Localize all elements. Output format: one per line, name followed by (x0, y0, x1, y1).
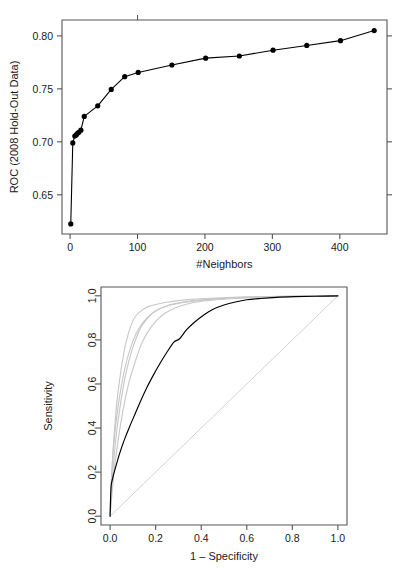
y-axis-tick-labels: 0.00.20.40.60.81.0 (86, 288, 98, 523)
data-point (95, 103, 100, 108)
x-tick-label: 300 (264, 241, 282, 253)
x-tick-label: 1.0 (331, 532, 346, 544)
x-axis-tick-labels: 0100200300400 (67, 241, 349, 253)
plot-border (62, 20, 387, 234)
x-axis-tick-labels: 0.00.20.40.60.81.0 (103, 532, 346, 544)
x-axis-title: 1 – Specificity (190, 550, 258, 562)
x-tick-label: 0 (67, 241, 73, 253)
data-point (372, 28, 377, 33)
x-axis-title: #Neighbors (196, 258, 253, 270)
x-axis-ticks (110, 525, 338, 530)
y-tick-label: 0.80 (33, 30, 54, 42)
chance-diagonal-line (110, 296, 338, 516)
y-tick-label: 0.75 (33, 83, 54, 95)
y-axis-ticks (96, 296, 101, 516)
y-tick-label: 0.2 (86, 465, 98, 480)
y-tick-label: 1.0 (86, 288, 98, 303)
data-point (109, 87, 114, 92)
data-point (68, 221, 73, 226)
y-axis-title: Sensitivity (42, 381, 54, 431)
neighbors-chart-svg: 0100200300400 0.650.700.750.80 #Neighbor… (0, 0, 406, 272)
neighbors-series-group (68, 28, 377, 227)
data-point (203, 56, 208, 61)
y-tick-label: 0.6 (86, 377, 98, 392)
x-tick-label: 400 (331, 241, 349, 253)
data-point (136, 70, 141, 75)
data-point (270, 48, 275, 53)
x-tick-label: 200 (196, 241, 214, 253)
data-point (237, 53, 242, 58)
y-tick-label: 0.0 (86, 509, 98, 524)
y-tick-label: 0.65 (33, 189, 54, 201)
chart-panel-roc: 0.00.20.40.60.81.0 0.00.20.40.60.81.0 1 … (0, 272, 406, 575)
data-point (304, 43, 309, 48)
series-line (71, 31, 374, 224)
x-tick-label: 100 (129, 241, 147, 253)
x-tick-label: 0.8 (285, 532, 300, 544)
neighbors-plot-box (62, 20, 387, 234)
data-point (338, 38, 343, 43)
y-axis-title: ROC (2008 Hold-Out Data) (8, 61, 20, 194)
x-tick-label: 0.2 (148, 532, 163, 544)
data-point (70, 140, 75, 145)
x-tick-label: 0.0 (103, 532, 118, 544)
data-point (122, 74, 127, 79)
chart-panel-neighbors: 0100200300400 0.650.700.750.80 #Neighbor… (0, 0, 406, 272)
roc-chart-svg: 0.00.20.40.60.81.0 0.00.20.40.60.81.0 1 … (0, 272, 406, 575)
y-tick-label: 0.4 (86, 421, 98, 436)
y-axis-ticks (57, 36, 392, 195)
data-point (78, 128, 83, 133)
chance-diagonal (110, 296, 338, 516)
figure-root: 0100200300400 0.650.700.750.80 #Neighbor… (0, 0, 406, 575)
data-point (169, 62, 174, 67)
x-tick-label: 0.6 (239, 532, 254, 544)
x-tick-label: 0.4 (194, 532, 209, 544)
x-axis-ticks (70, 15, 340, 239)
data-point (82, 114, 87, 119)
y-tick-label: 0.8 (86, 332, 98, 347)
y-tick-label: 0.70 (33, 136, 54, 148)
y-axis-tick-labels: 0.650.700.750.80 (33, 30, 54, 201)
